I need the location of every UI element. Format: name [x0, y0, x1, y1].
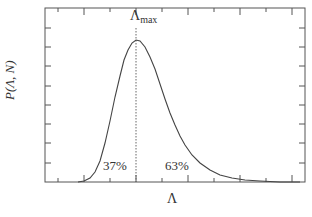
- peak-symbol: Λ: [130, 8, 140, 23]
- y-axis-label: P(Λ, N): [2, 60, 18, 100]
- peak-subscript: max: [140, 14, 157, 25]
- y-axis-ticks: [45, 28, 305, 163]
- left-area-percent: 37%: [103, 158, 127, 174]
- distribution-chart: [0, 0, 312, 217]
- x-axis-ticks: [58, 8, 292, 182]
- y-axis-label-text: P(Λ, N): [2, 60, 17, 100]
- plot-frame: [45, 8, 305, 182]
- peak-label: Λmax: [130, 8, 157, 25]
- right-area-percent: 63%: [165, 158, 189, 174]
- x-axis-label: Λ: [167, 191, 177, 207]
